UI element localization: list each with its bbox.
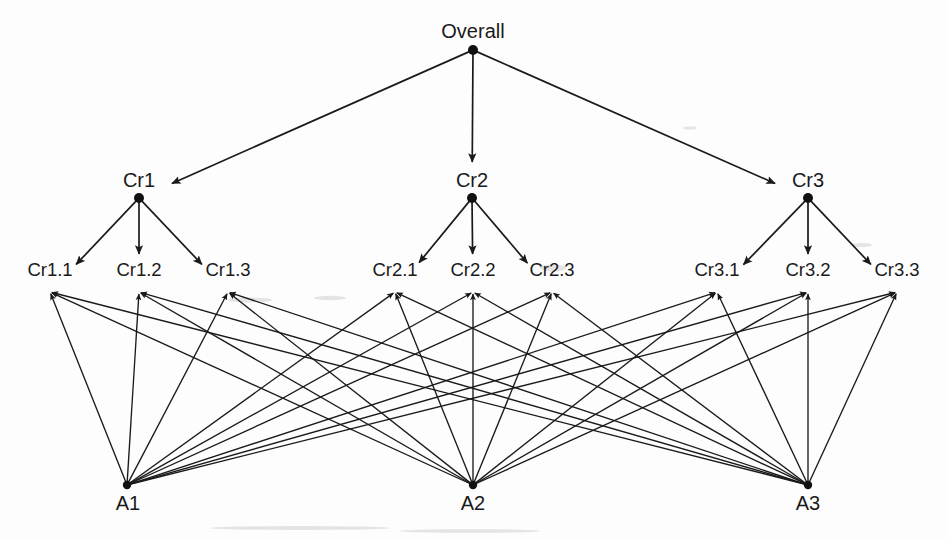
edge-a1-to-cr13 [128,294,227,483]
edge-cr2-to-cr22 [472,202,473,254]
node-label-cr31: Cr3.1 [694,259,739,280]
edge-cr3-to-cr31 [743,201,805,265]
node-dot-cr3 [803,193,813,203]
hierarchy-canvas: OverallCr1Cr2Cr3Cr1.1Cr1.2Cr1.3Cr2.1Cr2.… [0,0,947,539]
criteria-subcriteria-link-group [76,201,871,265]
node-label-a3: A3 [796,492,820,514]
edge-overall-to-cr2 [472,54,473,162]
edge-cr2-to-cr23 [475,201,528,263]
node-dot-cr2 [467,193,477,203]
node-label-cr1: Cr1 [123,169,155,191]
node-label-cr2: Cr2 [456,169,488,191]
node-label-cr32: Cr3.2 [785,259,830,280]
node-label-overall: Overall [441,20,504,42]
node-dot-overall [468,45,478,55]
edge-a1-to-cr12 [127,294,139,482]
edge-a1-to-cr23 [130,293,550,484]
node-label-cr13: Cr1.3 [205,259,250,280]
goal-criteria-link-group [172,52,775,184]
node-dot-a2 [469,481,477,489]
scan-artifacts [210,126,872,532]
edge-a3-to-cr31 [718,294,807,482]
node-label-a1: A1 [116,492,140,514]
node-label-a2: A2 [461,492,485,514]
node-label-cr22: Cr2.2 [450,259,495,280]
node-dot-a1 [123,481,131,489]
node-label-cr23: Cr2.3 [529,259,574,280]
edge-a3-to-cr13 [230,293,805,484]
edge-cr1-to-cr13 [142,201,202,265]
edge-a3-to-cr33 [809,294,896,482]
node-label-cr33: Cr3.3 [874,259,919,280]
node-dot-a3 [804,481,812,489]
edge-cr2-to-cr21 [419,201,469,263]
node-label-cr3: Cr3 [792,169,824,191]
edge-a2-to-cr33 [476,293,895,484]
edge-cr1-to-cr11 [76,201,136,265]
edge-overall-to-cr3 [477,52,775,184]
edge-cr3-to-cr33 [811,201,871,265]
edge-a3-to-cr21 [397,293,805,484]
node-dot-cr1 [134,193,144,203]
alternative-link-group [51,292,896,484]
node-label-cr21: Cr2.1 [372,259,417,280]
edge-a3-to-cr11 [52,292,805,484]
ahp-hierarchy-diagram: OverallCr1Cr2Cr3Cr1.1Cr1.2Cr1.3Cr2.1Cr2.… [0,0,947,539]
node-label-cr12: Cr1.2 [116,259,161,280]
node-label-cr11: Cr1.1 [27,259,72,280]
edge-overall-to-cr1 [172,52,469,184]
